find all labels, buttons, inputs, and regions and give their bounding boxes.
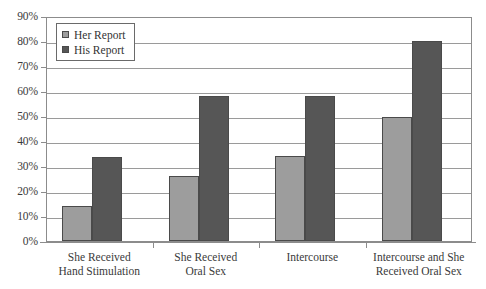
x-axis-separator-tick (259, 243, 260, 248)
y-axis-tick-label: 50% (0, 111, 38, 123)
legend-label: Her Report (74, 29, 125, 41)
legend-swatch-icon (62, 46, 69, 53)
x-axis-category-label: She ReceivedHand Stimulation (46, 250, 153, 278)
bar-her-report (62, 206, 92, 241)
x-axis-line (40, 242, 476, 243)
bar-her-report (382, 117, 412, 241)
y-axis: 90%80%70%60%50%40%30%20%10%0% (0, 0, 38, 289)
legend-item: Her Report (62, 27, 125, 42)
y-axis-tick-mark (41, 117, 46, 118)
y-axis-tick-mark (41, 42, 46, 43)
y-axis-tick-label: 10% (0, 211, 38, 223)
y-axis-tick-label: 40% (0, 136, 38, 148)
category-label-line: Hand Stimulation (46, 264, 153, 278)
bar-her-report (275, 156, 305, 241)
category-label-line: Received Oral Sex (366, 264, 473, 278)
chart-legend: Her ReportHis Report (56, 23, 135, 61)
x-axis-labels: She ReceivedHand StimulationShe Received… (46, 250, 472, 288)
bar-chart: 90%80%70%60%50%40%30%20%10%0% Her Report… (0, 0, 486, 289)
bar-group (367, 18, 474, 241)
category-label-line: She Received (68, 251, 131, 263)
y-axis-tick-mark (41, 17, 46, 18)
y-axis-tick-mark (41, 92, 46, 93)
y-axis-tick-mark (41, 192, 46, 193)
y-axis-tick-mark (41, 67, 46, 68)
y-axis-tick-label: 20% (0, 186, 38, 198)
bar-group (260, 18, 367, 241)
y-axis-tick-mark (41, 242, 46, 243)
bar-his-report (92, 157, 122, 241)
category-label-line: Oral Sex (153, 264, 260, 278)
y-axis-tick-label: 0% (0, 236, 38, 248)
y-axis-tick-label: 80% (0, 36, 38, 48)
y-axis-tick-label: 90% (0, 11, 38, 23)
y-axis-tick-mark (41, 217, 46, 218)
legend-item: His Report (62, 42, 125, 57)
bar-his-report (412, 41, 442, 241)
bar-his-report (305, 96, 335, 241)
category-label-line: Intercourse and She (373, 251, 464, 263)
y-axis-tick-label: 60% (0, 86, 38, 98)
y-axis-tick-label: 70% (0, 61, 38, 73)
legend-swatch-icon (62, 31, 69, 38)
y-axis-tick-label: 30% (0, 161, 38, 173)
bar-group (154, 18, 261, 241)
x-axis-category-label: She ReceivedOral Sex (153, 250, 260, 278)
y-axis-tick-mark (41, 142, 46, 143)
bar-his-report (199, 96, 229, 241)
y-axis-tick-mark (41, 167, 46, 168)
bar-her-report (169, 176, 199, 241)
x-axis-separator-tick (366, 243, 367, 248)
x-axis-category-label: Intercourse (259, 250, 366, 264)
x-axis-separator-tick (153, 243, 154, 248)
x-axis-category-label: Intercourse and SheReceived Oral Sex (366, 250, 473, 278)
plot-area: Her ReportHis Report (46, 17, 472, 242)
category-label-line: She Received (174, 251, 237, 263)
category-label-line: Intercourse (286, 251, 338, 263)
legend-label: His Report (74, 44, 124, 56)
